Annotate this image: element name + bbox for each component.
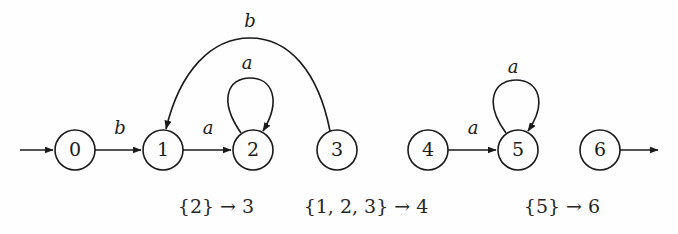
state-node-1[interactable]: 1 — [143, 130, 183, 170]
edge-label-0-to-1: b — [114, 117, 126, 138]
state-node-4[interactable]: 4 — [408, 130, 448, 170]
state-node-0[interactable]: 0 — [55, 130, 95, 170]
state-node-3[interactable]: 3 — [317, 130, 357, 170]
state-node-2[interactable]: 2 — [233, 130, 273, 170]
edge-label-1-to-2: a — [203, 117, 214, 138]
edge-1-to-2: a — [183, 117, 231, 150]
edge-4-to-5: a — [448, 117, 496, 150]
edge-5-self-loop-path — [493, 80, 539, 133]
edge-label-2-self-loop: a — [242, 52, 253, 73]
state-label-6: 6 — [594, 138, 606, 160]
edge-label-4-to-5: a — [468, 117, 479, 138]
caption-subset-123-to-4: {1, 2, 3} → 4 — [304, 195, 429, 217]
automaton-svg-canvas: b a a b a a — [0, 0, 678, 234]
caption-subset-2-to-3: {2} → 3 — [178, 195, 254, 217]
edge-label-3-to-1: b — [244, 10, 256, 31]
edge-5-self-loop: a — [493, 56, 539, 133]
edge-label-5-self-loop: a — [508, 56, 519, 77]
edge-2-self-loop: a — [228, 52, 273, 133]
state-label-0: 0 — [69, 138, 81, 160]
state-node-5[interactable]: 5 — [498, 130, 538, 170]
state-node-6[interactable]: 6 — [580, 130, 620, 170]
caption-subset-5-to-6: {5} → 6 — [524, 195, 600, 217]
edge-0-to-1: b — [95, 117, 141, 150]
state-label-4: 4 — [422, 138, 434, 160]
state-label-1: 1 — [157, 138, 169, 160]
state-label-3: 3 — [331, 138, 343, 160]
automaton-figure: b a a b a a — [0, 0, 678, 234]
edge-2-self-loop-path — [228, 78, 273, 133]
state-label-5: 5 — [512, 138, 524, 160]
state-label-2: 2 — [247, 138, 259, 160]
